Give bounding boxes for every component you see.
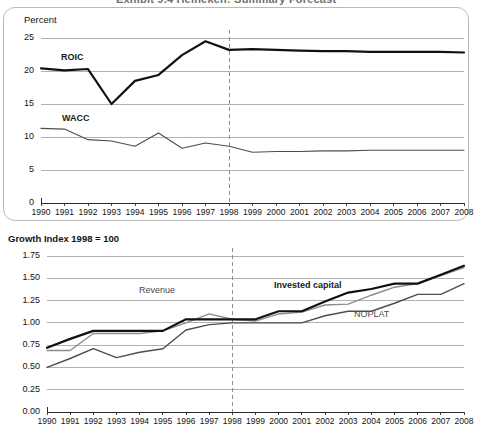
- series-label-roic: ROIC: [61, 52, 84, 62]
- x-axis-tick: 2008: [449, 207, 479, 217]
- series-label-revenue: Revenue: [139, 285, 175, 295]
- y-axis-tick: 20: [1, 65, 34, 75]
- growth-index-axis-title: Growth Index 1998 = 100: [8, 233, 119, 244]
- y-axis-tick: 25: [1, 32, 34, 42]
- roic-wacc-axis-title: Percent: [24, 14, 57, 25]
- x-axis-tick: 2008: [449, 416, 479, 426]
- y-axis-tick: 10: [1, 131, 34, 141]
- series-label-invested-capital: Invested capital: [274, 280, 342, 290]
- y-axis-tick: 0: [1, 197, 34, 207]
- roic-wacc-plot: [0, 0, 480, 222]
- y-axis-tick: 15: [1, 98, 34, 108]
- series-label-noplat: NOPLAT: [354, 309, 389, 319]
- y-axis-tick: 0.25: [7, 384, 40, 394]
- y-axis-tick: 0.75: [7, 339, 40, 349]
- y-axis-tick: 1.50: [7, 272, 40, 282]
- y-axis-tick: 0.50: [7, 361, 40, 371]
- y-axis-tick: 0.00: [7, 406, 40, 416]
- y-axis-tick: 1.75: [7, 250, 40, 260]
- y-axis-tick: 1.00: [7, 317, 40, 327]
- roic-wacc-chart: Percent 05101520251990199119921993199419…: [0, 0, 480, 222]
- growth-index-plot: [0, 230, 480, 442]
- growth-index-chart: Growth Index 1998 = 100 0.000.250.500.75…: [0, 230, 480, 442]
- y-axis-tick: 5: [1, 164, 34, 174]
- y-axis-tick: 1.25: [7, 295, 40, 305]
- series-label-wacc: WACC: [62, 113, 90, 123]
